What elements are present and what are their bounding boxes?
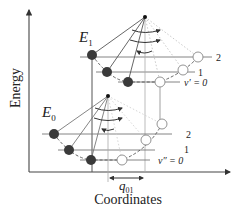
lower-state-label: E0 bbox=[41, 104, 56, 123]
displacement-label: q01 bbox=[119, 178, 134, 195]
upper-dotted-string bbox=[145, 17, 183, 70]
lower-open-1 bbox=[141, 135, 151, 145]
upper-open-1 bbox=[178, 65, 188, 75]
lower-open-0 bbox=[117, 155, 127, 165]
upper-pivot bbox=[143, 15, 147, 19]
lower-dotted-string bbox=[108, 96, 146, 140]
upper-open-0 bbox=[155, 77, 165, 87]
upper-ball-0 bbox=[123, 77, 133, 87]
lower-level-label-0: v″ = 0 bbox=[158, 155, 183, 166]
franck-condon-diagram: Energy Coordinates bbox=[0, 0, 238, 212]
upper-level-label-0: v′ = 0 bbox=[184, 77, 207, 88]
upper-string bbox=[92, 17, 145, 55]
lower-string bbox=[54, 96, 108, 134]
lower-string bbox=[69, 96, 108, 150]
lower-ball-0 bbox=[86, 155, 96, 165]
upper-state: 2 1 v′ = 0 E1 bbox=[78, 15, 221, 172]
lower-level-label-2: 2 bbox=[186, 129, 191, 140]
swing-arc-icon bbox=[137, 51, 152, 53]
upper-ball-2 bbox=[87, 50, 97, 60]
upper-level-label-2: 2 bbox=[216, 52, 221, 63]
lower-level-label-1: 1 bbox=[184, 144, 189, 155]
lower-state: 2 1 v″ = 0 E0 bbox=[41, 94, 191, 182]
upper-ball-1 bbox=[102, 67, 112, 77]
y-axis-label: Energy bbox=[8, 68, 23, 108]
lower-ball-1 bbox=[64, 145, 74, 155]
upper-string bbox=[107, 17, 145, 72]
axes bbox=[29, 10, 230, 172]
upper-dotted-string bbox=[145, 17, 198, 57]
upper-state-label: E1 bbox=[78, 29, 93, 48]
lower-pivot bbox=[106, 94, 110, 98]
lower-open-2 bbox=[157, 119, 167, 129]
upper-open-2 bbox=[193, 52, 203, 62]
lower-ball-2 bbox=[49, 129, 59, 139]
